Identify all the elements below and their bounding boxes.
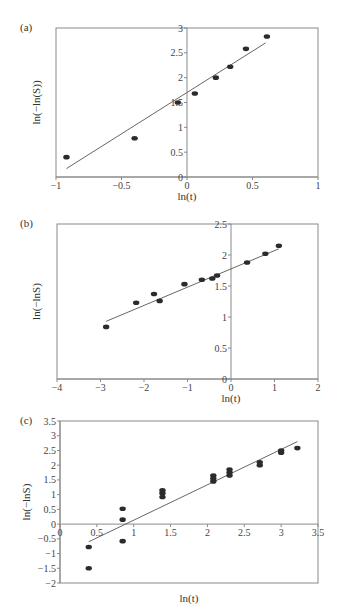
x-tick-label: −1 [182,382,193,393]
y-axis-label: ln(−ln(S)) [30,80,43,124]
x-tick-label: 1 [316,180,321,191]
x-axis-label: ln(t) [180,592,199,605]
panel-label: (a) [20,21,33,34]
y-tick-label: 2 [178,72,183,83]
y-tick-label: 0 [178,172,183,183]
x-tick-label: 0 [58,527,63,538]
x-axis-label: ln(t) [222,392,241,405]
y-tick-label: 2.5 [44,445,57,456]
fit-line [89,442,298,542]
data-point [209,276,215,281]
x-tick-label: −3 [95,382,106,393]
data-point [133,300,139,305]
data-point [214,273,220,278]
x-tick-label: 2 [316,382,321,393]
data-point [262,251,268,256]
data-point [119,539,125,544]
y-tick-label: 1.5 [215,281,228,292]
figure: −1−0.500.5100.511.522.53(a)ln(t)ln(−ln(S… [0,0,339,614]
data-point [119,506,125,511]
data-point [119,517,125,522]
data-point [131,136,137,141]
x-axis-label: ln(t) [178,190,197,203]
x-tick-label: 3.5 [312,527,325,538]
data-point [151,292,157,297]
fit-line [66,43,265,169]
y-tick-label: 3.5 [44,416,57,427]
y-tick-label: 1.5 [44,474,57,485]
x-tick-label: −2 [139,382,150,393]
y-axis-label: ln(−lnS) [30,283,43,320]
x-tick-label: −4 [52,382,63,393]
panel-label: (b) [20,217,33,230]
y-tick-label: 1 [51,489,56,500]
chart-panel-0: −1−0.500.5100.511.522.53(a)ln(t)ln(−ln(S… [20,21,321,203]
y-tick-label: 2.5 [215,219,228,230]
data-point [159,495,165,500]
fit-line [106,249,279,322]
x-tick-label: −0.5 [112,180,130,191]
data-point [210,479,216,484]
x-tick-label: 3 [279,527,284,538]
y-tick-label: 1 [222,312,227,323]
x-tick-label: 1 [131,527,136,538]
data-point [278,451,284,456]
x-tick-label: 2.5 [238,527,251,538]
plot-frame [60,421,318,583]
y-axis-label: ln(−lnS) [20,483,33,520]
y-tick-label: 3 [51,430,56,441]
x-tick-label: −1 [51,180,62,191]
y-tick-label: 2 [51,460,56,471]
y-tick-label: 0 [222,374,227,385]
y-tick-label: 2 [222,250,227,261]
data-point [181,282,187,287]
data-point [294,446,300,451]
y-tick-label: 0.5 [171,147,184,158]
data-point [86,566,92,571]
data-point [257,463,263,468]
x-tick-label: 1.5 [164,527,177,538]
x-tick-label: 0.5 [91,527,104,538]
data-point [86,545,92,550]
data-point [227,64,233,69]
x-tick-label: 0.5 [246,180,259,191]
y-tick-label: 0.5 [44,504,57,515]
data-point [192,91,198,96]
data-point [199,278,205,283]
data-point [264,34,270,39]
chart-panel-2: 00.511.522.533.5−2−1.5−1−0.500.511.522.5… [20,414,324,605]
chart-panel-1: −4−3−2−101200.511.522.5(b)ln(t)ln(−lnS) [20,217,321,405]
y-tick-label: −2 [45,578,56,589]
y-tick-label: 1 [178,122,183,133]
data-point [175,100,181,105]
data-point [276,243,282,248]
data-point [103,325,109,330]
y-tick-label: −1.5 [38,563,56,574]
x-tick-label: 2 [205,527,210,538]
y-tick-label: −1 [45,548,56,559]
panel-label: (c) [20,414,33,427]
y-tick-label: 0 [51,519,56,530]
y-tick-label: 2.5 [171,47,184,58]
x-tick-label: 1 [272,382,277,393]
y-tick-label: 0.5 [215,343,228,354]
data-point [244,260,250,265]
data-point [226,473,232,478]
data-point [243,47,249,52]
y-tick-label: −0.5 [38,533,56,544]
data-point [156,299,162,304]
data-point [63,155,69,160]
data-point [213,75,219,80]
y-tick-label: 3 [178,23,183,34]
